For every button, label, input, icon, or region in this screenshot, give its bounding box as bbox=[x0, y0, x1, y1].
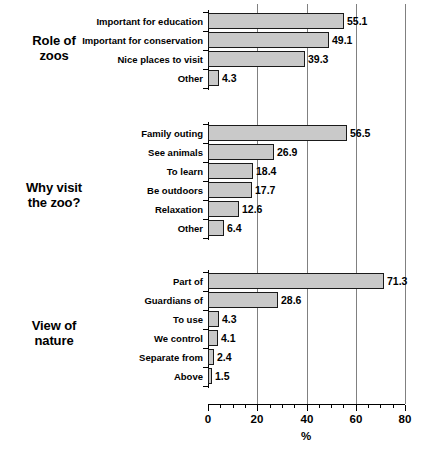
x-axis: % 020406080 bbox=[0, 404, 424, 458]
x-tick-major-40 bbox=[307, 405, 308, 411]
y-axis-tick bbox=[203, 386, 208, 387]
x-tick-minor-55 bbox=[343, 405, 344, 408]
x-tick-minor-65 bbox=[368, 405, 369, 408]
category-label: Relaxation bbox=[0, 203, 203, 216]
bar-row: To use4.3 bbox=[0, 310, 424, 329]
y-axis-tick bbox=[203, 88, 208, 89]
bar-row: Be outdoors17.7 bbox=[0, 181, 424, 200]
x-tick-label: 20 bbox=[237, 413, 277, 425]
x-tick-major-60 bbox=[356, 405, 357, 411]
x-tick-label: 0 bbox=[188, 413, 228, 425]
bar bbox=[208, 311, 219, 327]
bar bbox=[208, 201, 239, 217]
bar-row: Nice places to visit39.3 bbox=[0, 50, 424, 69]
bar bbox=[208, 182, 252, 198]
x-tick-major-0 bbox=[208, 405, 209, 411]
y-axis-tick bbox=[203, 238, 208, 239]
x-tick-minor-75 bbox=[393, 405, 394, 408]
bar-row: Above1.5 bbox=[0, 367, 424, 386]
x-tick-minor-50 bbox=[331, 405, 332, 408]
bar bbox=[208, 144, 274, 160]
category-label: Other bbox=[0, 222, 203, 235]
x-tick-minor-15 bbox=[245, 405, 246, 408]
x-tick-label: 40 bbox=[287, 413, 327, 425]
category-label: Family outing bbox=[0, 127, 203, 140]
bar-row: See animals26.9 bbox=[0, 143, 424, 162]
category-label: We control bbox=[0, 332, 203, 345]
bar-row: Important for education55.1 bbox=[0, 12, 424, 31]
bar-value-label: 12.6 bbox=[242, 203, 262, 216]
bar-value-label: 2.4 bbox=[217, 351, 232, 364]
bar-row: Other6.4 bbox=[0, 219, 424, 238]
bar-value-label: 26.9 bbox=[277, 146, 297, 159]
bar-value-label: 17.7 bbox=[255, 184, 275, 197]
category-label: Separate from bbox=[0, 351, 203, 364]
bar bbox=[208, 163, 253, 179]
bar-value-label: 28.6 bbox=[281, 294, 301, 307]
bar bbox=[208, 51, 305, 67]
bar bbox=[208, 125, 347, 141]
bar-value-label: 55.1 bbox=[347, 15, 367, 28]
bar-value-label: 39.3 bbox=[308, 53, 328, 66]
zoo-survey-bar-chart: Role of zoos Why visit the zoo? View of … bbox=[0, 0, 424, 458]
bar bbox=[208, 70, 219, 86]
bar-value-label: 4.3 bbox=[222, 72, 237, 85]
category-label: Part of bbox=[0, 275, 203, 288]
bar bbox=[208, 292, 278, 308]
x-tick-minor-35 bbox=[294, 405, 295, 408]
plot-area: Important for education55.1Important for… bbox=[0, 0, 424, 412]
bar bbox=[208, 13, 344, 29]
bar-value-label: 4.3 bbox=[222, 313, 237, 326]
x-tick-minor-25 bbox=[270, 405, 271, 408]
bar bbox=[208, 349, 214, 365]
x-tick-minor-10 bbox=[233, 405, 234, 408]
bar-value-label: 56.5 bbox=[350, 127, 370, 140]
x-tick-major-20 bbox=[257, 405, 258, 411]
category-label: Guardians of bbox=[0, 294, 203, 307]
x-tick-minor-5 bbox=[220, 405, 221, 408]
bar-row: Family outing56.5 bbox=[0, 124, 424, 143]
bar-row: Other4.3 bbox=[0, 69, 424, 88]
x-axis-title: % bbox=[286, 430, 326, 442]
bar-value-label: 49.1 bbox=[332, 34, 352, 47]
bar bbox=[208, 330, 218, 346]
x-tick-label: 80 bbox=[385, 413, 424, 425]
bar-row: Separate from2.4 bbox=[0, 348, 424, 367]
bar-value-label: 1.5 bbox=[215, 370, 230, 383]
category-label: Other bbox=[0, 72, 203, 85]
bar-row: We control4.1 bbox=[0, 329, 424, 348]
category-label: Important for conservation bbox=[0, 34, 203, 47]
bar bbox=[208, 220, 224, 236]
bar bbox=[208, 368, 212, 384]
bar-value-label: 71.3 bbox=[387, 275, 407, 288]
category-label: Important for education bbox=[0, 15, 203, 28]
category-label: Nice places to visit bbox=[0, 53, 203, 66]
bar bbox=[208, 273, 384, 289]
bar bbox=[208, 32, 329, 48]
category-label: See animals bbox=[0, 146, 203, 159]
category-label: Above bbox=[0, 370, 203, 383]
bar-row: To learn18.4 bbox=[0, 162, 424, 181]
x-tick-minor-30 bbox=[282, 405, 283, 408]
category-label: To learn bbox=[0, 165, 203, 178]
bar-value-label: 18.4 bbox=[256, 165, 276, 178]
bar-value-label: 4.1 bbox=[221, 332, 236, 345]
bar-row: Guardians of28.6 bbox=[0, 291, 424, 310]
x-tick-major-80 bbox=[405, 405, 406, 411]
bar-row: Part of71.3 bbox=[0, 272, 424, 291]
x-tick-minor-45 bbox=[319, 405, 320, 408]
bar-row: Important for conservation49.1 bbox=[0, 31, 424, 50]
category-label: To use bbox=[0, 313, 203, 326]
x-tick-minor-70 bbox=[380, 405, 381, 408]
x-tick-label: 60 bbox=[336, 413, 376, 425]
category-label: Be outdoors bbox=[0, 184, 203, 197]
bar-row: Relaxation12.6 bbox=[0, 200, 424, 219]
bar-value-label: 6.4 bbox=[227, 222, 242, 235]
